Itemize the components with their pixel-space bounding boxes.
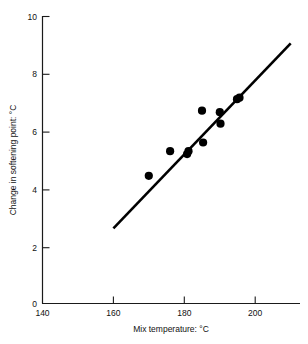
y-axis-ticks — [43, 17, 50, 248]
x-axis-title: Mix temperature: °C — [133, 324, 209, 334]
y-tick-label-6: 6 — [32, 127, 37, 137]
x-tick-label-140: 140 — [35, 308, 49, 318]
x-tick-label-200: 200 — [248, 308, 262, 318]
scatter-plot-figure: 10 8 6 4 2 0 140 160 180 200 Mix tempera… — [0, 0, 308, 344]
data-point — [235, 94, 243, 102]
plot-canvas: 10 8 6 4 2 0 140 160 180 200 Mix tempera… — [0, 0, 308, 344]
data-point — [199, 138, 207, 146]
data-point — [216, 120, 224, 128]
data-point — [184, 147, 192, 155]
x-tick-label-160: 160 — [106, 308, 120, 318]
x-tick-label-180: 180 — [177, 308, 191, 318]
fitted-regression-line — [113, 43, 290, 228]
y-axis-title: Change in softening point: °C — [8, 105, 18, 216]
data-point — [198, 107, 206, 115]
data-point — [145, 172, 153, 180]
y-tick-label-8: 8 — [32, 69, 37, 79]
y-tick-label-4: 4 — [32, 185, 37, 195]
x-axis-ticks — [113, 297, 255, 304]
y-tick-label-2: 2 — [32, 243, 37, 253]
data-point — [166, 147, 174, 155]
y-tick-label-10: 10 — [28, 12, 38, 22]
data-point — [216, 108, 224, 116]
